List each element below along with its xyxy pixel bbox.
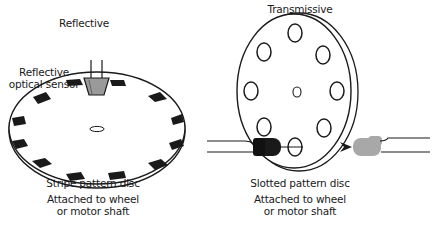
right-attach-line1: Attached to wheel: [244, 193, 356, 205]
left-attach-line2: or motor shaft: [38, 205, 148, 217]
slotted-disc-caption: Slotted pattern disc: [244, 177, 356, 189]
right-attach-line2: or motor shaft: [244, 205, 356, 217]
left-attach-line1: Attached to wheel: [38, 193, 148, 205]
reflective-heading: Reflective: [52, 17, 116, 29]
stripe-disc-caption: Stripe pattern disc: [38, 177, 148, 189]
sensor-label-line1: Reflective: [8, 66, 80, 78]
photo-receiver: [353, 136, 430, 156]
transmissive-heading: Transmissive: [260, 3, 340, 15]
reflective-optical-sensor: [84, 60, 109, 95]
sensor-label-line2: optical sensor: [8, 78, 80, 90]
led-emitter: [207, 138, 281, 156]
